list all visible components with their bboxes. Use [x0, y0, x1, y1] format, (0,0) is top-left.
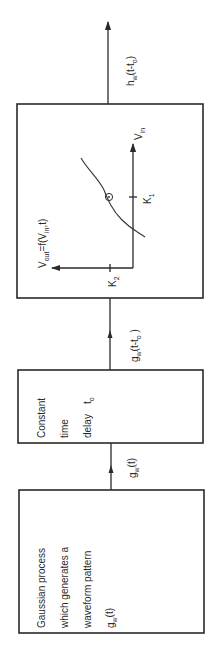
- k2-label: K2: [107, 276, 120, 287]
- delay-symbol: to: [82, 397, 95, 404]
- time-delay-line-3: delay: [82, 414, 93, 438]
- time-delay-line-2: time: [59, 419, 70, 438]
- source-signal-label: gw(t): [126, 458, 140, 478]
- vin-axis-label: Vin: [133, 128, 146, 140]
- k1-label: K1: [142, 193, 155, 204]
- source-signal-arrowhead: [109, 465, 114, 473]
- delayed-signal-label: gw(t-to ): [129, 329, 142, 362]
- output-edge: hw(t-to): [108, 22, 138, 104]
- delayed-signal-edge: gw(t-to ): [108, 298, 142, 370]
- block-diagram: hw(t-to) Vin K1 K2 Vout=: [0, 0, 220, 663]
- nonlinear-function-block: Vin K1 K2 Vout=f(Vin,t): [17, 104, 203, 298]
- delayed-signal-arrowhead: [108, 330, 113, 338]
- gaussian-process-block: Gaussian process which generates a wavef…: [19, 490, 204, 633]
- time-delay-line-1: Constant: [36, 398, 47, 438]
- gaussian-line-1: Gaussian process: [36, 548, 47, 628]
- time-delay-block: Constant time delay to: [18, 370, 203, 443]
- source-signal-edge: gw(t): [109, 443, 140, 490]
- gaussian-signal-label: gw(t): [104, 608, 118, 628]
- function-label: Vout=f(Vin,t): [37, 219, 50, 268]
- gaussian-line-3: waveform pattern: [82, 551, 93, 629]
- output-signal-label: hw(t-to): [125, 56, 138, 86]
- gaussian-line-2: which generates a: [59, 546, 70, 629]
